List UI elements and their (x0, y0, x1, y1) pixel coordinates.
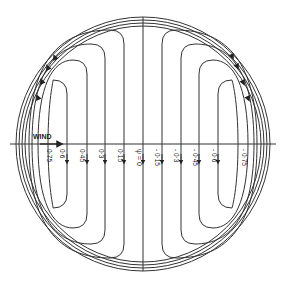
streamline-figure: 0·750·60·450·30·15- 0·15- 0·3- 0·45- 0·6… (0, 0, 286, 285)
streamline-diagram: 0·750·60·450·30·15- 0·15- 0·3- 0·45- 0·6… (0, 0, 286, 285)
wind-label: WIND (33, 133, 52, 140)
contour-value-label: - 0·3 (173, 149, 180, 163)
contour-value-label: - 0·75 (241, 149, 248, 166)
contour-value-label: 0·45 (79, 149, 86, 162)
contour-value-label: 0·15 (117, 149, 124, 162)
contour-value-label: 0·3 (98, 149, 105, 159)
contour-value-label: - 0·15 (154, 149, 161, 166)
contour-value-label: 0·6 (59, 149, 66, 159)
contour-value-label: - 0·6 (211, 149, 218, 163)
psi-zero-label: ψ = 0 (135, 149, 143, 166)
contour-value-label: - 0·45 (192, 149, 199, 166)
contour-value-label: 0·75 (46, 149, 53, 162)
